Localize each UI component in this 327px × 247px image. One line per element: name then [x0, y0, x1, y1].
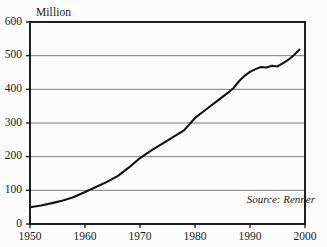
- gridlines: [30, 56, 305, 191]
- x-tick-label-1950: 1950: [13, 230, 47, 242]
- y-tick-label-300: 300: [0, 116, 22, 128]
- y-tick-label-600: 600: [0, 15, 22, 27]
- x-tick-label-1990: 1990: [233, 230, 267, 242]
- x-tick-label-1970: 1970: [123, 230, 157, 242]
- chart-canvas: [0, 0, 327, 247]
- source-annotation: Source: Renner: [247, 193, 315, 205]
- x-tick-label-1960: 1960: [68, 230, 102, 242]
- x-tick-label-1980: 1980: [178, 230, 212, 242]
- y-tick-label-500: 500: [0, 48, 22, 60]
- chart-figure: Million 6005004003002001000 195019601970…: [0, 0, 327, 247]
- x-tick-label-2000: 2000: [288, 230, 322, 242]
- y-tick-label-200: 200: [0, 149, 22, 161]
- y-tick-label-100: 100: [0, 183, 22, 195]
- y-tick-label-400: 400: [0, 82, 22, 94]
- y-tick-label-0: 0: [0, 217, 22, 229]
- data-series-line: [30, 50, 300, 208]
